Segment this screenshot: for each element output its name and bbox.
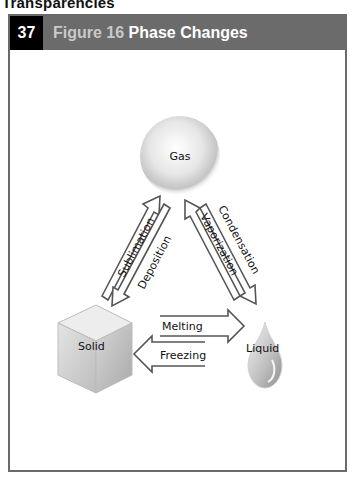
phase-diagram: Gas Solid Liquid Sublimation Deposition … xyxy=(0,0,355,481)
solid-cube: Solid xyxy=(58,305,132,393)
gas-label: Gas xyxy=(170,150,191,163)
solid-label: Solid xyxy=(78,340,105,353)
gas-sphere: Gas xyxy=(140,116,220,196)
liquid-drop: Liquid xyxy=(246,322,282,388)
freezing-label: Freezing xyxy=(160,349,206,362)
liquid-label: Liquid xyxy=(246,342,279,355)
melting-label: Melting xyxy=(162,320,203,333)
